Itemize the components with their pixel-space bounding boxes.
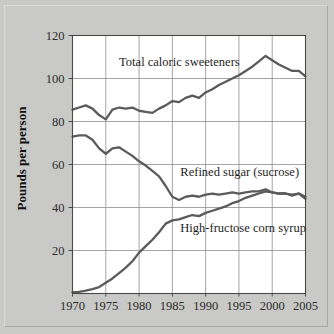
series-annotation-2: Refined sugar (sucrose): [180, 165, 299, 179]
y-tick-label: 20: [52, 244, 65, 258]
chart-figure: 19701975198019851990199520002005 2040608…: [0, 0, 334, 334]
series-annotation-3: High-fructose corn syrup: [180, 221, 306, 235]
x-axis-tick-labels: 19701975198019851990199520002005: [60, 299, 318, 313]
y-tick-label: 40: [52, 201, 65, 215]
y-tick-label: 120: [46, 29, 65, 43]
x-tick-label: 1990: [193, 299, 218, 313]
x-tick-label: 2000: [260, 299, 285, 313]
line-chart: 19701975198019851990199520002005 2040608…: [0, 0, 334, 334]
x-tick-label: 2005: [293, 299, 318, 313]
y-axis-title: Pounds per person: [14, 106, 29, 211]
x-tick-label: 1975: [93, 299, 118, 313]
x-tick-label: 1995: [226, 299, 251, 313]
y-tick-label: 80: [52, 115, 65, 129]
y-tick-label: 100: [46, 72, 65, 86]
x-tick-label: 1970: [60, 299, 85, 313]
y-axis-tick-labels: 20406080100120: [46, 29, 65, 258]
y-tick-label: 60: [52, 158, 65, 172]
y-axis-title-text: Pounds per person: [14, 106, 29, 211]
x-tick-label: 1980: [127, 299, 152, 313]
x-tick-label: 1985: [160, 299, 185, 313]
series-annotation-1: Total caloric sweeteners: [119, 55, 240, 69]
